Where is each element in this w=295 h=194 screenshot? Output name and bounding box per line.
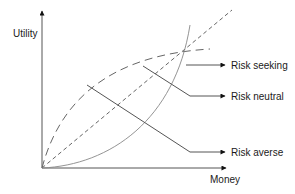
risk-averse-curve xyxy=(42,49,210,168)
x-axis-label: Money xyxy=(210,174,240,185)
utility-diagram: Utility Money Risk seeking Risk neutral … xyxy=(0,0,295,194)
y-axis-label: Utility xyxy=(13,28,37,39)
risk-neutral-line xyxy=(42,10,232,168)
risk-neutral-label: Risk neutral xyxy=(231,91,284,102)
risk-seeking-curve xyxy=(42,25,190,168)
risk-neutral-leader xyxy=(143,66,225,96)
risk-averse-leader xyxy=(87,85,225,152)
risk-averse-label: Risk averse xyxy=(231,147,284,158)
risk-seeking-label: Risk seeking xyxy=(231,60,288,71)
